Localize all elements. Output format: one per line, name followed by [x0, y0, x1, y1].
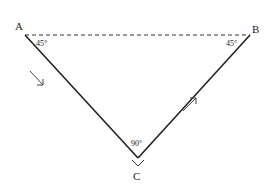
- arrow-icon-c-to-b: [183, 98, 196, 111]
- angle-label-b: 45°: [226, 39, 237, 48]
- triangle-diagram: A B C 45° 45° 90°: [0, 0, 276, 188]
- diagram-svg: A B C 45° 45° 90°: [0, 0, 276, 188]
- arrow-icon-a-to-c: [30, 71, 43, 85]
- vertex-label-a: A: [15, 20, 23, 32]
- edge-a-c: [25, 35, 138, 158]
- right-angle-marker: [132, 160, 144, 166]
- edge-c-b: [138, 35, 250, 158]
- angle-label-a: 45°: [36, 39, 47, 48]
- angle-label-c: 90°: [131, 139, 142, 148]
- vertex-label-c: C: [133, 170, 140, 182]
- vertex-label-b: B: [252, 23, 259, 35]
